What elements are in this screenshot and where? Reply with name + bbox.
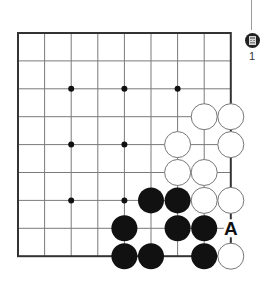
black-stone[interactable] — [111, 215, 137, 241]
star-point — [121, 142, 127, 148]
white-stone[interactable] — [218, 243, 244, 269]
white-stone[interactable] — [218, 187, 244, 213]
black-stone[interactable] — [191, 243, 217, 269]
white-stone[interactable] — [218, 104, 244, 130]
star-point — [175, 86, 181, 92]
star-point — [68, 197, 74, 203]
white-stone[interactable] — [218, 132, 244, 158]
star-point — [68, 142, 74, 148]
star-point — [68, 86, 74, 92]
white-stone[interactable] — [191, 160, 217, 186]
black-stone[interactable] — [138, 243, 164, 269]
move-number: 1 — [247, 50, 257, 62]
star-point — [121, 197, 127, 203]
white-stone[interactable] — [191, 187, 217, 213]
black-stone[interactable] — [165, 187, 191, 213]
black-stone[interactable] — [191, 215, 217, 241]
star-point — [121, 86, 127, 92]
white-stone[interactable] — [165, 160, 191, 186]
point-label-a[interactable]: A — [224, 218, 238, 239]
black-stone[interactable] — [138, 187, 164, 213]
calculator-icon[interactable] — [245, 33, 260, 48]
white-stone[interactable] — [165, 132, 191, 158]
marker-connector-line — [251, 0, 252, 30]
go-board: A — [0, 0, 277, 293]
black-stone[interactable] — [165, 215, 191, 241]
white-stone[interactable] — [191, 104, 217, 130]
black-stone[interactable] — [111, 243, 137, 269]
